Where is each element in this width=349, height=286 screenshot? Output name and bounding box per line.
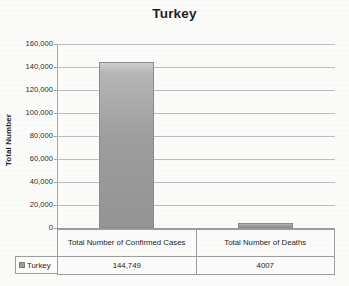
- table-value-deaths: 4007: [196, 257, 335, 275]
- y-axis-tick-label: 140,000: [1, 63, 53, 71]
- table-header-deaths: Total Number of Deaths: [196, 230, 335, 257]
- bar-deaths: [238, 223, 293, 228]
- y-axis-tick: [54, 159, 57, 160]
- y-axis-tick-label: 40,000: [1, 178, 53, 186]
- legend-label: Turkey: [27, 261, 51, 270]
- table-header-confirmed-cases: Total Number of Confirmed Cases: [58, 230, 197, 257]
- y-axis-tick: [54, 113, 57, 114]
- y-axis-tick-label: 160,000: [1, 40, 53, 48]
- bar-confirmed-cases: [99, 62, 154, 228]
- y-axis-tick: [54, 44, 57, 45]
- table-value-confirmed-cases: 144,749: [58, 257, 197, 275]
- chart-data-table: Total Number of Confirmed Cases Total Nu…: [57, 229, 335, 275]
- table-row-values: 144,749 4007: [58, 257, 335, 275]
- legend-series-turkey: Turkey: [15, 256, 58, 274]
- chart-title: Turkey: [0, 6, 349, 21]
- gridline: [57, 44, 335, 45]
- y-axis-tick: [54, 182, 57, 183]
- y-axis-tick-label: 100,000: [1, 109, 53, 117]
- y-axis-tick: [54, 205, 57, 206]
- table-row-headers: Total Number of Confirmed Cases Total Nu…: [58, 230, 335, 257]
- y-axis-tick: [54, 136, 57, 137]
- y-axis-tick: [54, 67, 57, 68]
- y-axis-tick-label: 80,000: [1, 132, 53, 140]
- legend-swatch-icon: [19, 262, 25, 268]
- chart-container: Turkey Total Number 160,000140,000120,00…: [0, 0, 349, 286]
- y-axis-tick-label: 0: [1, 224, 53, 232]
- y-axis-tick-label: 20,000: [1, 201, 53, 209]
- y-axis-tick-label: 120,000: [1, 86, 53, 94]
- y-axis-tick: [54, 90, 57, 91]
- plot-area: [57, 44, 335, 228]
- y-axis-tick-label: 60,000: [1, 155, 53, 163]
- y-axis-tick-labels: 160,000140,000120,000100,00080,00060,000…: [0, 44, 53, 229]
